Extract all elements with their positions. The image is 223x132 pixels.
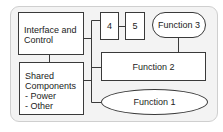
block-4-label: 4	[107, 21, 112, 31]
function-1-block: Function 1	[101, 89, 208, 115]
block-4: 4	[100, 12, 119, 40]
shared-item-other: - Other	[25, 101, 83, 111]
block-5: 5	[125, 12, 145, 40]
interface-label-line1: Interface and	[24, 25, 83, 35]
interface-label-line2: Control	[24, 35, 83, 45]
function-2-block: Function 2	[101, 52, 206, 81]
block-5-label: 5	[132, 21, 137, 31]
shared-item-power: - Power	[25, 91, 83, 101]
shared-label-line1: Shared	[25, 71, 83, 81]
shared-label-line2: Components	[25, 81, 83, 91]
interface-and-control-block: Interface and Control	[18, 12, 84, 55]
function-2-label: Function 2	[132, 62, 174, 72]
function-3-block: Function 3	[152, 12, 206, 38]
function-3-label: Function 3	[158, 20, 200, 30]
shared-components-block: Shared Components - Power - Other	[19, 62, 84, 115]
function-1-label: Function 1	[133, 97, 175, 107]
